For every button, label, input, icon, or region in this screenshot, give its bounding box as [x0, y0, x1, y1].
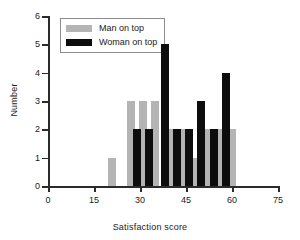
x-axis-tick [186, 186, 188, 192]
histogram-chart: Number Satisfaction score 0123456 015304… [0, 0, 300, 240]
legend-swatch-woman [66, 39, 92, 46]
x-axis-tick [140, 186, 142, 192]
x-axis-tick [48, 186, 50, 192]
y-axis-tick-label: 6 [22, 12, 40, 21]
y-axis-tick-label: 4 [22, 69, 40, 78]
x-axis-label: Satisfaction score [0, 222, 300, 232]
legend-swatch-man [66, 25, 92, 32]
y-axis-tick-label: 0 [22, 182, 40, 191]
chart-legend: Man on topWoman on top [60, 18, 165, 53]
y-axis-tick-label: 5 [22, 40, 40, 49]
legend-item-woman: Woman on top [66, 37, 157, 48]
x-axis-tick-label: 30 [128, 196, 152, 205]
bar-woman [133, 129, 141, 186]
bar-woman [161, 44, 169, 186]
legend-label-woman: Woman on top [99, 38, 157, 47]
bar-woman [173, 129, 181, 186]
legend-label-man: Man on top [99, 24, 144, 33]
x-axis-tick-label: 15 [82, 196, 106, 205]
bar-woman [145, 129, 153, 186]
x-axis-tick-label: 45 [174, 196, 198, 205]
x-axis-line [48, 186, 278, 188]
y-axis-label: Number [9, 70, 19, 130]
y-axis-tick-label: 3 [22, 97, 40, 106]
bar-man [108, 158, 116, 186]
x-axis-tick-label: 60 [220, 196, 244, 205]
x-axis-tick-label: 75 [266, 196, 290, 205]
x-axis-tick [94, 186, 96, 192]
bar-woman [197, 101, 205, 186]
y-axis-tick-label: 1 [22, 154, 40, 163]
bar-woman [185, 129, 193, 186]
x-axis-tick [278, 186, 280, 192]
bar-woman [210, 129, 218, 186]
x-axis-tick-label: 0 [36, 196, 60, 205]
bar-woman [222, 73, 230, 186]
y-axis-tick-label: 2 [22, 125, 40, 134]
x-axis-tick [232, 186, 234, 192]
legend-item-man: Man on top [66, 23, 157, 34]
